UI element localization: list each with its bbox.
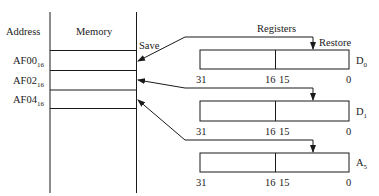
address-header: Address xyxy=(6,26,40,38)
register-d1-name: D1 xyxy=(356,106,367,122)
save-label: Save xyxy=(139,40,159,52)
bit-label-16: 16 xyxy=(265,177,276,189)
bit-label-16: 16 xyxy=(265,126,276,138)
bit-label-31: 31 xyxy=(196,126,207,138)
d1-save-arrow xyxy=(138,80,185,88)
diagram-lines xyxy=(0,0,379,196)
bit-label-0: 0 xyxy=(346,126,351,138)
a5-restore-arrow xyxy=(185,140,313,152)
bit-label-0: 0 xyxy=(346,74,351,86)
d0-restore-arrow xyxy=(185,37,313,49)
address-label-af02: AF0216 xyxy=(13,75,44,91)
registers-title: Registers xyxy=(257,23,296,35)
bit-label-31: 31 xyxy=(196,74,207,86)
bit-label-31: 31 xyxy=(196,177,207,189)
register-a5-name: A5 xyxy=(356,157,367,173)
address-label-af00: AF0016 xyxy=(13,55,44,71)
restore-label: Restore xyxy=(319,37,351,49)
register-d0-name: D0 xyxy=(356,55,367,71)
bit-label-15: 15 xyxy=(279,177,290,189)
bit-label-16: 16 xyxy=(265,74,276,86)
memory-header: Memory xyxy=(76,26,112,38)
address-label-af04: AF0416 xyxy=(13,94,44,110)
register-d1-box xyxy=(200,101,349,121)
bit-label-15: 15 xyxy=(279,126,290,138)
bit-label-0: 0 xyxy=(346,177,351,189)
a5-save-arrow xyxy=(138,100,185,140)
d1-restore-arrow xyxy=(185,88,313,100)
bit-label-15: 15 xyxy=(279,74,290,86)
register-d0-box xyxy=(200,50,349,69)
register-a5-box xyxy=(200,153,349,172)
